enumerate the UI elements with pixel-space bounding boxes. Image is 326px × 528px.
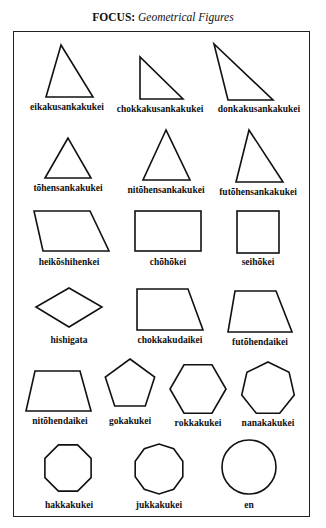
figure-label: chōhōkei <box>150 257 186 267</box>
figure-label: nitōhendaikei <box>32 416 87 426</box>
scalene-triangle-icon <box>236 130 283 182</box>
figure-label: hishigata <box>51 335 88 345</box>
decagon-icon <box>135 444 183 494</box>
isosceles-triangle-icon <box>143 130 190 180</box>
right-triangle-icon <box>140 57 183 99</box>
pentagon-icon <box>105 359 154 406</box>
parallelogram-icon <box>34 211 109 251</box>
hexagon-icon <box>170 365 226 413</box>
figure-label: jukkakukei <box>136 500 182 510</box>
rhombus-icon <box>36 288 102 327</box>
figure-label: chokkakusankakukei <box>117 104 204 114</box>
rectangle-icon <box>135 211 201 251</box>
right-trapezoid-icon <box>137 289 203 330</box>
figure-label: donkakusankakukei <box>218 104 300 114</box>
figure-label: en <box>244 500 254 510</box>
figure-label: nanakakukei <box>242 418 295 428</box>
figure-label: chokkakudaikei <box>138 335 203 345</box>
octagon-icon <box>45 445 91 491</box>
heptagon-icon <box>242 362 295 413</box>
figure-label: futōhensankakukei <box>219 187 297 197</box>
square-icon <box>237 211 279 253</box>
figure-label: eikakusankakukei <box>30 102 104 112</box>
isosceles-trapezoid-icon <box>26 371 91 411</box>
figure-label: futōhendaikei <box>232 337 288 347</box>
figure-label: rokkakukei <box>175 418 222 428</box>
equilateral-triangle-icon <box>45 138 91 178</box>
figure-label: seihōkei <box>242 257 275 267</box>
figure-label: heikōshihenkei <box>39 257 100 267</box>
acute-triangle-icon <box>46 45 93 97</box>
scalene-trapezoid-icon <box>228 291 292 332</box>
figure-label: hakkakukei <box>45 500 93 510</box>
figure-label: nitōhensankakukei <box>127 185 204 195</box>
figure-label: gokakukei <box>109 416 151 426</box>
circle-icon <box>222 440 276 494</box>
obtuse-triangle-icon <box>214 44 273 100</box>
figure-label: tōhensankakukei <box>33 183 102 193</box>
